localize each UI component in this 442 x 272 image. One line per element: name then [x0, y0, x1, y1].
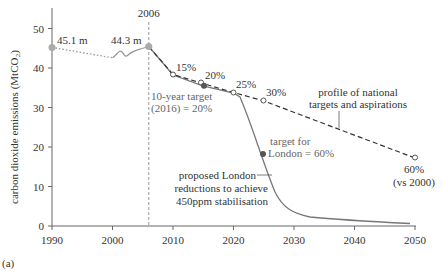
- label-60pct: 60%: [404, 163, 424, 175]
- x-tick: 2030: [283, 234, 306, 246]
- y-tick: 50: [33, 23, 45, 35]
- point-10yr-target: [201, 83, 207, 89]
- label-20pct: 20%: [205, 69, 225, 81]
- x-tick: 2050: [404, 234, 427, 246]
- label-proposed-2: reductions to achieve: [175, 182, 269, 194]
- label-ten-year-2: (2016) = 20%: [151, 102, 212, 115]
- label-national-1: profile of national: [318, 86, 397, 98]
- y-tick: 20: [33, 141, 45, 153]
- y-axis-label: carbon dioxide emissions (MtCO₂): [8, 50, 21, 204]
- y-tick-labels: 0 10 20 30 40 50: [33, 23, 45, 233]
- point-25pct: [231, 90, 236, 95]
- y-tick: 30: [33, 102, 45, 114]
- label-proposed-3: 450ppm stabilisation: [176, 195, 268, 207]
- point-london-target: [260, 151, 266, 157]
- x-tick: 2010: [162, 234, 185, 246]
- point-60pct: [413, 155, 418, 160]
- y-tick: 10: [33, 181, 45, 193]
- x-tick-labels: 1990 2000 2010 2020 2030 2040 2050: [41, 234, 427, 246]
- x-tick: 2040: [344, 234, 367, 246]
- emissions-chart: 0 10 20 30 40 50 1990 2000 2010 2020 203…: [0, 0, 442, 272]
- point-1990: [49, 44, 56, 51]
- label-ten-year-1: 10-year target: [151, 90, 212, 102]
- label-london-target-1: target for: [270, 135, 311, 147]
- label-vs2000: (vs 2000): [393, 176, 435, 189]
- label-national-2: targets and aspirations: [309, 98, 407, 110]
- x-tick: 2000: [102, 234, 125, 246]
- panel-label: (a): [2, 257, 15, 270]
- y-tick: 0: [39, 220, 45, 232]
- x-tick: 1990: [41, 234, 64, 246]
- year-2006-label: 2006: [138, 7, 161, 19]
- label-london-target-2: London = 60%: [268, 147, 334, 159]
- label-2006-value: 44.3 m: [111, 34, 142, 46]
- label-proposed-1: proposed London: [179, 169, 257, 181]
- point-2006: [145, 43, 152, 50]
- label-start-value: 45.1 m: [57, 34, 88, 46]
- historic-dotted-line: [52, 47, 113, 57]
- label-25pct: 25%: [236, 78, 256, 90]
- point-15pct: [171, 72, 176, 77]
- point-30pct: [261, 98, 266, 103]
- x-tick: 2020: [223, 234, 246, 246]
- historic-solid-line: [113, 47, 149, 58]
- label-30pct: 30%: [266, 86, 286, 98]
- label-15pct: 15%: [176, 61, 196, 73]
- y-tick: 40: [33, 62, 45, 74]
